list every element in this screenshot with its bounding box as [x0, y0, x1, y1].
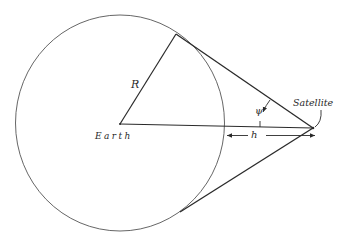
- angle-psi-label: ψ: [255, 106, 263, 116]
- earth-center-point: [119, 123, 121, 125]
- psi-angle-arc: [263, 100, 270, 112]
- satellite-point: [312, 127, 315, 130]
- center-to-satellite-line: [120, 124, 313, 128]
- radius-line: [120, 34, 176, 124]
- earth-satellite-geometry-diagram: [0, 0, 344, 238]
- satellite-label: Satellite: [293, 98, 333, 108]
- earth-label: Earth: [95, 132, 133, 141]
- satellite-leader-line: [315, 110, 321, 127]
- upper-tangent-line: [176, 34, 313, 128]
- lower-tangent-line: [180, 128, 313, 212]
- altitude-label: h: [249, 130, 259, 140]
- radius-label: R: [131, 79, 139, 90]
